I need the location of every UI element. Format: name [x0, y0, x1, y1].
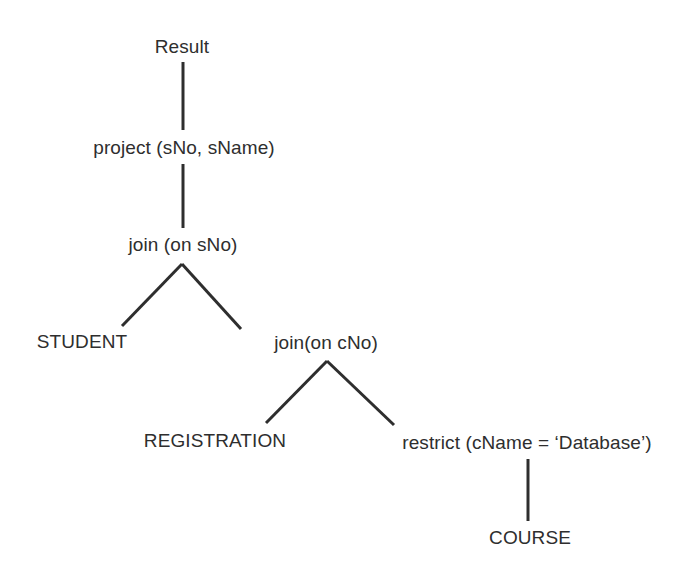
node-result: Result — [155, 37, 209, 56]
query-tree-diagram: Result project (sNo, sName) join (on sNo… — [0, 0, 699, 573]
edge-join-cno-restrict — [327, 361, 394, 425]
node-project: project (sNo, sName) — [93, 138, 275, 157]
node-registration: REGISTRATION — [144, 431, 286, 450]
edge-join-sno-student — [122, 264, 182, 326]
node-course: COURSE — [489, 528, 571, 547]
edge-join-cno-registration — [266, 361, 327, 423]
node-student: STUDENT — [37, 332, 127, 351]
node-join-cno: join(on cNo) — [274, 333, 378, 352]
edge-join-sno-join-cno — [182, 264, 241, 329]
node-join-sno: join (on sNo) — [128, 235, 237, 254]
node-restrict: restrict (cName = ‘Database’) — [402, 433, 651, 452]
tree-edges-layer — [0, 0, 699, 573]
